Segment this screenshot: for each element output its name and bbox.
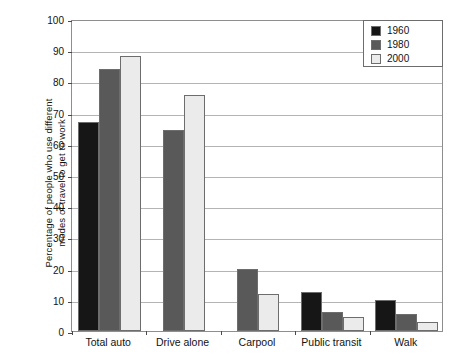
y-axis-tick-label: 60 bbox=[26, 139, 64, 150]
legend-item-1980: 1980 bbox=[371, 38, 442, 51]
x-axis-tick-labels: Total autoDrive aloneCarpoolPublic trans… bbox=[71, 336, 443, 356]
y-axis-tick-label: 10 bbox=[26, 295, 64, 306]
y-axis-tick-label: 70 bbox=[26, 108, 64, 119]
x-axis-tick bbox=[146, 331, 147, 335]
x-axis-tick bbox=[72, 331, 73, 335]
x-axis-tick bbox=[370, 331, 371, 335]
x-axis-tick bbox=[221, 331, 222, 335]
legend-swatch-icon bbox=[371, 40, 381, 50]
legend-item-1960: 1960 bbox=[371, 24, 442, 37]
y-axis-tick-label: 20 bbox=[26, 264, 64, 275]
chart-legend: 196019802000 bbox=[363, 20, 443, 67]
x-axis-tick-label: Public transit bbox=[301, 336, 361, 348]
legend-label: 2000 bbox=[387, 53, 409, 64]
x-axis-tick-label: Drive alone bbox=[156, 336, 209, 348]
y-axis-tick-label: 100 bbox=[26, 15, 64, 26]
x-axis-tick-label: Walk bbox=[394, 336, 417, 348]
bar-chart: Percentage of people who use different m… bbox=[0, 0, 454, 364]
y-axis-tick-label: 80 bbox=[26, 77, 64, 88]
bar-1960 bbox=[375, 300, 396, 331]
legend-swatch-icon bbox=[371, 26, 381, 36]
legend-label: 1980 bbox=[387, 39, 409, 50]
legend-swatch-icon bbox=[371, 54, 381, 64]
y-axis-tick-label: 90 bbox=[26, 46, 64, 57]
y-axis-tick-label: 30 bbox=[26, 233, 64, 244]
bar-2000 bbox=[417, 322, 438, 331]
x-axis-tick bbox=[295, 331, 296, 335]
bar-1980 bbox=[396, 314, 417, 331]
bar-group bbox=[72, 21, 444, 331]
x-axis-tick-label: Total auto bbox=[85, 336, 131, 348]
y-axis-tick-label: 40 bbox=[26, 202, 64, 213]
x-axis-tick-label: Carpool bbox=[239, 336, 276, 348]
y-axis-tick-label: 0 bbox=[26, 327, 64, 338]
legend-label: 1960 bbox=[387, 25, 409, 36]
y-axis-tick-label: 50 bbox=[26, 171, 64, 182]
y-axis-tick-labels: 0102030405060708090100 bbox=[26, 20, 64, 332]
legend-item-2000: 2000 bbox=[371, 52, 442, 65]
